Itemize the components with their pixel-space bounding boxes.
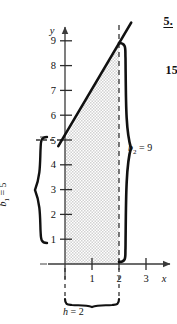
x-axis-label: x [161, 273, 167, 284]
b2-equation: = 9 [137, 142, 153, 153]
page-number: 15 [165, 63, 177, 78]
b1-symbol: b [0, 202, 8, 207]
exercise-number: 5. [163, 14, 173, 29]
b1-equation: = 5 [0, 182, 8, 198]
y-tick-7: 7 [51, 85, 56, 96]
b2-brace-label: b2 = 9 [128, 143, 152, 156]
y-tick-8: 8 [51, 60, 56, 71]
b1-brace-label: b1 = 5 [0, 182, 11, 206]
y-tick-3: 3 [51, 184, 56, 195]
b1-subscript: 1 [3, 198, 11, 202]
y-tick-4: 4 [51, 159, 57, 170]
y-tick-1: 1 [51, 234, 56, 245]
y-tick-9: 9 [51, 35, 56, 46]
shaded-trapezoid [65, 41, 119, 264]
y-axis-label: y [49, 25, 55, 36]
y-tick-2: 2 [51, 209, 56, 220]
x-tick-3: 3 [143, 273, 148, 284]
x-tick-1: 1 [89, 273, 94, 284]
h-equation: = 2 [68, 306, 84, 317]
b1-brace [35, 137, 47, 243]
h-brace-label: h = 2 [63, 307, 84, 317]
figure-canvas: 1 2 3 4 5 6 7 8 9 1 2 3 y x [0, 0, 177, 324]
y-tick-6: 6 [51, 110, 56, 121]
coordinate-graph: 1 2 3 4 5 6 7 8 9 1 2 3 y x [0, 0, 177, 324]
